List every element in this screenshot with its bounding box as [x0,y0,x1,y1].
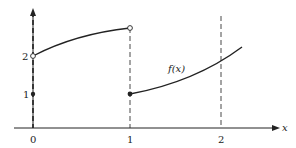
curve-segment-2 [130,47,242,94]
x-tick-0: 0 [30,134,36,145]
closed-endpoint-1-1 [128,92,133,97]
y-tick-1: 1 [23,89,29,100]
curve-segment-1 [33,28,130,56]
isolated-point-0-1 [31,92,35,96]
open-endpoint-1 [128,26,133,31]
x-tick-2: 2 [218,134,224,145]
open-endpoint-0-2 [31,54,36,59]
x-axis-arrow-icon [272,125,280,131]
function-graph: 0 1 2 2 1 x f(x) [0,0,296,148]
y-axis-arrow-icon [30,8,36,16]
x-axis-label: x [282,122,288,133]
y-tick-2: 2 [22,51,28,62]
x-tick-1: 1 [127,134,133,145]
function-label: f(x) [167,63,185,74]
